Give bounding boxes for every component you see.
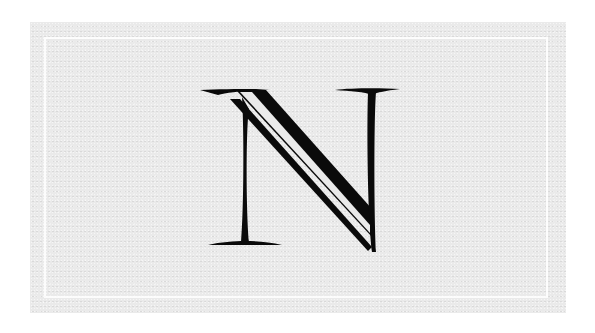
letter-n-logo-icon: N (200, 87, 410, 252)
monogram-card: N (30, 22, 566, 313)
